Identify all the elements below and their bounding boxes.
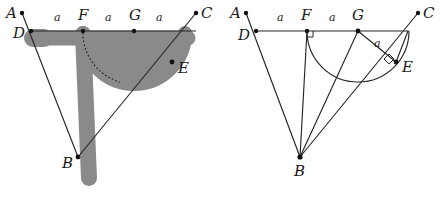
label-C: C <box>423 4 435 22</box>
right-svg: A D F G C E B a a a <box>222 0 445 209</box>
label-A: A <box>228 4 241 22</box>
label-E: E <box>401 58 413 76</box>
label-F: F <box>300 6 312 24</box>
label-G: G <box>129 6 141 24</box>
dot-E <box>394 60 399 65</box>
dot-G <box>356 29 361 34</box>
length-mark-DF: a <box>277 11 284 24</box>
line-C-B <box>300 13 418 157</box>
dot-B <box>297 154 302 159</box>
length-mark-GE: a <box>374 37 381 50</box>
length-mark-DF: a <box>54 11 61 24</box>
label-D: D <box>237 26 250 44</box>
dot-D <box>29 29 33 33</box>
dot-C <box>416 11 420 15</box>
line-A-B <box>246 13 300 157</box>
label-D: D <box>12 24 25 42</box>
line-F-B <box>300 31 307 157</box>
label-F: F <box>77 6 89 24</box>
line-G-B <box>300 31 358 157</box>
dot-F <box>305 29 309 33</box>
dot-B <box>76 155 81 160</box>
label-B: B <box>61 154 73 172</box>
length-mark-FG: a <box>105 11 112 24</box>
diagram-left-shaded: A D F G C E B a a a <box>0 0 222 209</box>
dot-G <box>132 29 136 33</box>
diagram-right-lineart: A D F G C E B a a a <box>222 0 445 209</box>
label-C: C <box>201 4 213 22</box>
dot-D <box>254 29 258 33</box>
dot-F <box>81 29 85 33</box>
dot-C <box>194 11 198 15</box>
label-G: G <box>352 6 364 24</box>
label-A: A <box>4 4 17 22</box>
dot-A <box>244 11 248 15</box>
right-construction-lines <box>246 13 418 157</box>
dot-E <box>170 60 175 65</box>
label-E: E <box>177 59 189 77</box>
right-vertex-dots <box>244 11 420 160</box>
length-mark-FG: a <box>329 11 336 24</box>
label-B: B <box>293 162 305 180</box>
semicircle-center-G <box>307 31 409 82</box>
left-shaded-body <box>33 33 188 178</box>
length-mark-GC: a <box>156 11 163 24</box>
figure-canvas: A D F G C E B a a a <box>0 0 445 209</box>
left-svg: A D F G C E B a a a <box>0 0 222 209</box>
dot-A <box>20 11 24 15</box>
